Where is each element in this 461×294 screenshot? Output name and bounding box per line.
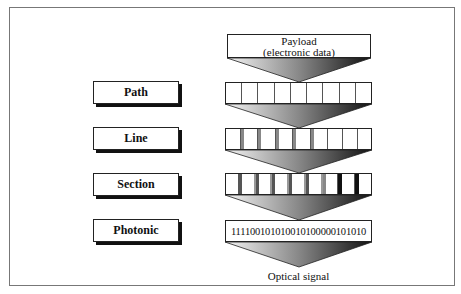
frame-cell — [340, 83, 356, 103]
payload-subtitle: (electronic data) — [228, 47, 370, 58]
frame-cell — [275, 83, 291, 103]
frame-cell — [356, 83, 371, 103]
frame-cell-overhead — [241, 129, 259, 149]
frame-cell-overhead — [293, 129, 311, 149]
layer-label-photonic: Photonic — [93, 219, 179, 242]
frame-cell-overhead — [239, 174, 256, 194]
frame-cell — [226, 129, 241, 149]
frame-cell — [358, 129, 372, 149]
frame-cell-overhead — [276, 129, 294, 149]
funnel-line-to-section — [225, 150, 372, 173]
photonic-bitstream: 111100101010010100000101010 — [225, 220, 372, 242]
frame-cell — [226, 83, 242, 103]
frame-cell — [307, 83, 323, 103]
frame-cell — [242, 83, 258, 103]
frame-cell — [323, 83, 339, 103]
frame-cell-overhead — [258, 129, 276, 149]
frame-cell-overhead — [289, 174, 306, 194]
frame-cell — [291, 83, 307, 103]
layer-label-section: Section — [93, 173, 179, 196]
frame-cell-overhead — [323, 174, 339, 194]
funnel-payload-to-path — [227, 58, 371, 82]
frame-cell-overhead — [272, 174, 289, 194]
funnel-photonic-to-optical — [225, 242, 372, 267]
path-frame — [225, 82, 372, 104]
funnel-section-to-photonic — [225, 195, 372, 220]
frame-cell — [226, 174, 239, 194]
section-frame — [225, 173, 372, 195]
frame-cell-overhead — [355, 174, 371, 194]
payload-box: Payload (electronic data) — [227, 34, 371, 58]
frame-cell — [343, 129, 358, 149]
frame-cell — [328, 129, 343, 149]
layer-label-line: Line — [93, 127, 179, 150]
frame-cell — [258, 83, 274, 103]
frame-cell-overhead — [256, 174, 273, 194]
frame-cell-overhead — [311, 129, 329, 149]
optical-signal-label: Optical signal — [225, 270, 372, 282]
frame-cell-overhead — [338, 174, 355, 194]
funnel-path-to-line — [225, 104, 372, 128]
frame-cell-overhead — [306, 174, 323, 194]
layer-label-path: Path — [93, 81, 179, 104]
line-frame — [225, 128, 372, 150]
